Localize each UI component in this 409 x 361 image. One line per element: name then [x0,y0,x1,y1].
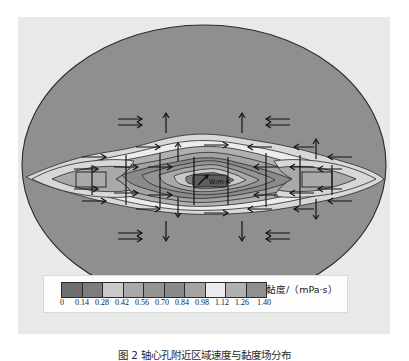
figure-caption: 图 2 轴心孔附近区域速度与黏度场分布 [0,347,409,361]
colorbar-tick-label: 0.28 [95,298,109,307]
colorbar-swatch [165,283,186,297]
colorbar-swatch [144,283,165,297]
figure-container: W/m·K 黏度/（mPa·s） [0,0,409,361]
colorbar-tick-label: 0.56 [135,298,149,307]
colorbar-swatch [83,283,104,297]
colorbar-title: 黏度/（mPa·s） [266,282,338,296]
colorbar-swatches [61,282,267,298]
colorbar-swatch [103,283,124,297]
svg-text:W/m·K: W/m·K [209,178,231,186]
colorbar-ticks: 0 0.14 0.28 0.42 0.56 0.70 0.84 0.98 1.1… [44,298,347,310]
plot-panel: W/m·K 黏度/（mPa·s） [18,17,390,334]
colorbar-swatch [185,283,206,297]
colorbar-tick-label: 0 [60,298,64,307]
colorbar-swatch [226,283,247,297]
colorbar-tick-label: 0.98 [195,298,209,307]
colorbar-tick-label: 0.84 [175,298,189,307]
colorbar-tick-label: 0.14 [75,298,89,307]
colorbar-swatch [247,283,267,297]
colorbar-swatch [206,283,227,297]
colorbar-tick-label: 0.70 [155,298,169,307]
colorbar-tick-label: 1.40 [257,298,271,307]
colorbar-tick-label: 1.12 [215,298,229,307]
colorbar-swatch [124,283,145,297]
colorbar-legend: 黏度/（mPa·s） 0 0.14 0.28 0.42 0.56 0.70 0.… [43,275,348,313]
plot-area: W/m·K 黏度/（mPa·s） [18,17,390,334]
colorbar-tick-label: 1.26 [235,298,249,307]
colorbar-swatch [62,283,83,297]
colorbar-tick-label: 0.42 [115,298,129,307]
